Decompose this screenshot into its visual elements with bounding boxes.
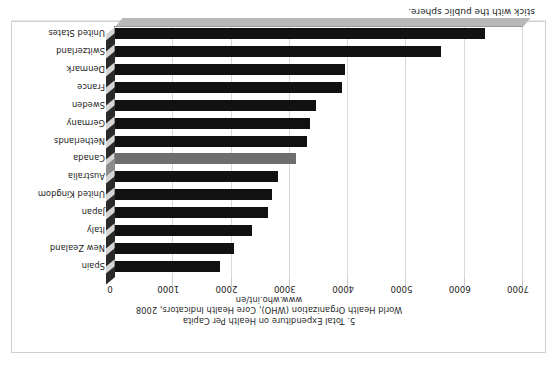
bar-row [115, 118, 523, 129]
tick-label-5000: 5000 [391, 284, 413, 294]
tick-label-1000: 1000 [157, 284, 179, 294]
bar-netherlands[interactable] [115, 136, 307, 147]
bar-row [115, 189, 523, 200]
bar-chart: 01000200030004000500060007000 SpainNew Z… [23, 19, 523, 294]
category-label-united-states: United States [48, 27, 105, 38]
bar-japan[interactable] [115, 207, 268, 218]
plot-area [115, 27, 523, 277]
bar-italy[interactable] [115, 225, 252, 236]
bar-switzerland[interactable] [115, 46, 441, 57]
tick-label-7000: 7000 [507, 284, 529, 294]
bar-row [115, 225, 523, 236]
scanned-page: 01000200030004000500060007000 SpainNew Z… [0, 0, 557, 375]
caption-line-1: 5. Total Expenditure on Health Per Capit… [119, 315, 419, 326]
caption-line-3: www.who.int/en [119, 294, 419, 305]
category-label-netherlands: Netherlands [54, 135, 105, 146]
category-label-australia: Australia [68, 170, 105, 181]
bar-row [115, 153, 523, 164]
bar-row [115, 171, 523, 182]
figure-caption: 5. Total Expenditure on Health Per Capit… [119, 294, 419, 326]
bar-row [115, 207, 523, 218]
category-label-italy: Italy [87, 224, 105, 235]
category-label-canada: Canada [73, 152, 105, 163]
bar-row [115, 82, 523, 93]
page-running-text: stick with the public sphere. [408, 7, 535, 17]
category-label-germany: Germany [67, 117, 106, 128]
tick-label-4000: 4000 [332, 284, 354, 294]
bar-row [115, 64, 523, 75]
bar-canada[interactable] [115, 153, 296, 164]
category-label-japan: Japan [82, 206, 105, 217]
bar-new-zealand[interactable] [115, 243, 234, 254]
bar-sweden[interactable] [115, 100, 316, 111]
bar-germany[interactable] [115, 118, 310, 129]
bar-row [115, 243, 523, 254]
tick-label-0: 0 [107, 284, 112, 294]
category-label-united-kingdom: United Kingdom [38, 188, 105, 199]
tick-label-3000: 3000 [274, 284, 296, 294]
bar-row [115, 261, 523, 272]
caption-line-2: World Health Organization (WHO), Core He… [119, 305, 419, 316]
tick-label-2000: 2000 [216, 284, 238, 294]
bar-row [115, 28, 523, 39]
bar-australia[interactable] [115, 171, 278, 182]
bar-france[interactable] [115, 82, 342, 93]
category-label-denmark: Denmark [67, 63, 106, 74]
tick-label-6000: 6000 [449, 284, 471, 294]
bar-row [115, 46, 523, 57]
bar-row [115, 136, 523, 147]
category-label-switzerland: Switzerland [56, 45, 105, 56]
category-label-spain: Spain [82, 260, 105, 271]
bar-row [115, 100, 523, 111]
bar-united-states[interactable] [115, 28, 485, 39]
bar-spain[interactable] [115, 261, 220, 272]
bar-denmark[interactable] [115, 64, 345, 75]
axis-baseline [114, 26, 523, 27]
category-label-france: France [77, 81, 105, 92]
category-label-new-zealand: New Zealand [50, 242, 105, 253]
bar-united-kingdom[interactable] [115, 189, 272, 200]
chart-frame: 01000200030004000500060007000 SpainNew Z… [11, 21, 546, 353]
category-label-sweden: Sweden [72, 99, 105, 110]
